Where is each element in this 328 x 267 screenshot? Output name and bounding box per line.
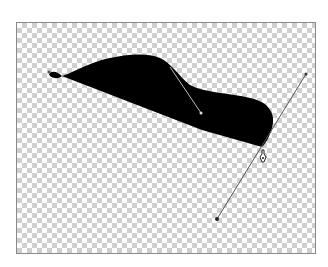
handle-point[interactable] [215, 217, 219, 221]
path-overlay[interactable] [0, 0, 328, 267]
anchor-point[interactable] [48, 71, 51, 74]
pen-tool-icon [260, 150, 266, 162]
filled-shape [49, 55, 273, 147]
handle-point[interactable] [200, 112, 203, 115]
handle-point[interactable] [305, 73, 308, 76]
